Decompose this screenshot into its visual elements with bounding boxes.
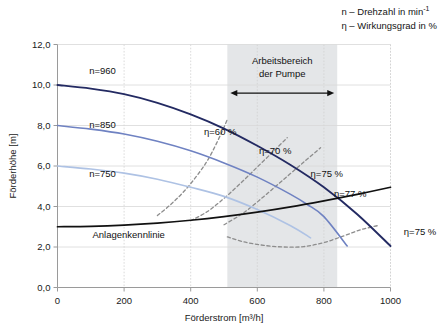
legend-line-speed: n – Drehzahl in min-1 xyxy=(341,2,437,19)
curve-label: n=960 xyxy=(89,65,116,76)
curve-n=960 xyxy=(58,85,391,246)
y-tick-label: 2,0 xyxy=(37,241,50,252)
legend-block: n – Drehzahl in min-1 η – Wirkungsgrad i… xyxy=(341,2,437,33)
y-tick-label: 8,0 xyxy=(37,120,50,131)
y-tick-label: 10,0 xyxy=(32,79,51,90)
curve-label: n=850 xyxy=(89,119,116,130)
x-tick-label: 400 xyxy=(183,295,199,306)
legend-speed-text: n – Drehzahl in min xyxy=(341,6,423,17)
y-tick-label: 12,0 xyxy=(32,39,51,50)
y-tick-label: 4,0 xyxy=(37,201,50,212)
x-tick-label: 600 xyxy=(249,295,265,306)
curve-label: η=75 % xyxy=(404,226,437,237)
legend-line-efficiency: η – Wirkungsgrad in % xyxy=(341,19,437,33)
x-tick-label: 200 xyxy=(116,295,132,306)
curve-label: Anlagenkennlinie xyxy=(92,229,164,240)
y-tick-label: 6,0 xyxy=(37,160,50,171)
x-axis-title: Förderstrom [m³/h] xyxy=(185,312,264,323)
tick-labels-group: 0,02,04,06,08,010,012,002004006008001000 xyxy=(32,39,401,306)
curve-label: η=77 % xyxy=(334,188,367,199)
curve-label: η=70 % xyxy=(259,145,292,156)
x-tick-label: 1000 xyxy=(380,295,401,306)
curve-label: n=750 xyxy=(89,168,116,179)
chart-canvas: 0,02,04,06,08,010,012,002004006008001000… xyxy=(0,0,445,336)
curve-label: η=75 % xyxy=(311,168,344,179)
gridlines-group xyxy=(58,45,391,288)
band-label-line1: Arbeitsbereich xyxy=(252,55,313,66)
x-tick-label: 0 xyxy=(55,295,60,306)
legend-speed-exponent: -1 xyxy=(423,5,429,12)
band-label-line2: der Pumpe xyxy=(259,68,305,79)
x-tick-label: 800 xyxy=(316,295,332,306)
curve-label: η=60 % xyxy=(204,126,237,137)
y-tick-label: 0,0 xyxy=(37,282,50,293)
y-axis-title: Förderhöhe [m] xyxy=(7,134,18,199)
pump-characteristic-figure: n – Drehzahl in min-1 η – Wirkungsgrad i… xyxy=(0,0,445,336)
